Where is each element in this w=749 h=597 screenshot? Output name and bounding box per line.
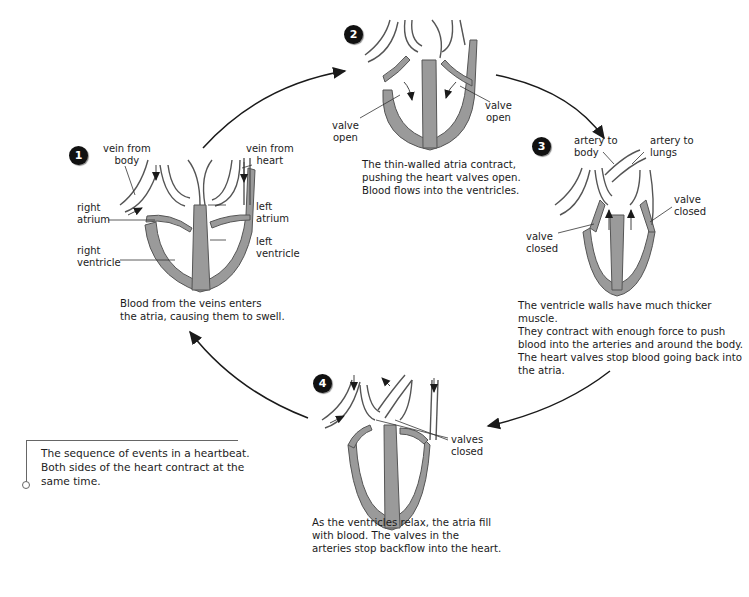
label-line: right — [77, 245, 121, 257]
label-line: vein from — [246, 143, 294, 155]
label-line: vein from — [103, 143, 151, 155]
label-valves-closed: valves closed — [451, 434, 483, 458]
label-line: closed — [674, 206, 706, 218]
caption-stage-2: The thin-walled atria contract, pushing … — [362, 158, 521, 197]
label-line: artery to — [650, 135, 694, 147]
label-vein-from-body: vein from body — [103, 143, 151, 167]
label-line: heart — [246, 155, 294, 167]
caption-stage-3: The ventricle walls have much thicker mu… — [518, 299, 749, 377]
caption-line: pushing the heart valves open. — [362, 171, 521, 184]
note-line: The sequence of events in a heartbeat. — [41, 446, 256, 460]
caption-line: with blood. The valves in the — [312, 529, 501, 542]
label-line: open — [485, 112, 512, 124]
note-line: Both sides of the heart contract at the — [41, 460, 256, 474]
label-valve-open-left: valve open — [332, 120, 359, 144]
label-line: ventricle — [256, 248, 300, 260]
label-left-ventricle: left ventricle — [256, 236, 300, 260]
label-line: valves — [451, 434, 483, 446]
label-artery-to-body: artery to body — [574, 135, 618, 159]
caption-line: They contract with enough force to push — [518, 325, 749, 338]
label-line: closed — [451, 446, 483, 458]
label-line: atrium — [256, 213, 289, 225]
label-line: valve — [485, 100, 512, 112]
step-badge-2: 2 — [344, 25, 363, 44]
step-badge-4: 4 — [313, 374, 332, 393]
label-vein-from-heart: vein from heart — [246, 143, 294, 167]
label-valve-closed-left: valve closed — [526, 231, 558, 255]
figure-note: The sequence of events in a heartbeat. B… — [41, 446, 256, 488]
note-rule-vertical — [26, 440, 27, 482]
label-line: closed — [526, 243, 558, 255]
caption-line: the atria. — [518, 364, 749, 377]
caption-line: Blood flows into the ventricles. — [362, 184, 521, 197]
note-rule-horizontal — [26, 440, 238, 441]
caption-line: the atria, causing them to swell. — [120, 310, 285, 323]
caption-line: blood into the arteries and around the b… — [518, 338, 749, 351]
label-line: valve — [674, 194, 706, 206]
step-badge-1: 1 — [69, 146, 88, 165]
label-line: body — [574, 147, 618, 159]
label-left-atrium: left atrium — [256, 201, 289, 225]
caption-line: Blood from the veins enters — [120, 297, 285, 310]
label-artery-to-lungs: artery to lungs — [650, 135, 694, 159]
label-line: valve — [332, 120, 359, 132]
label-line: left — [256, 201, 289, 213]
label-valve-open-right: valve open — [485, 100, 512, 124]
caption-line: As the ventricles relax, the atria fill — [312, 516, 501, 529]
label-valve-closed-right: valve closed — [674, 194, 706, 218]
label-line: open — [332, 132, 359, 144]
label-line: body — [103, 155, 151, 167]
note-bullet-icon — [22, 481, 30, 489]
label-line: right — [77, 202, 110, 214]
caption-line: The heart valves stop blood going back i… — [518, 351, 749, 364]
caption-line: The ventricle walls have much thicker mu… — [518, 299, 749, 325]
label-line: artery to — [574, 135, 618, 147]
caption-stage-1: Blood from the veins enters the atria, c… — [120, 297, 285, 323]
label-line: lungs — [650, 147, 694, 159]
label-right-atrium: right atrium — [77, 202, 110, 226]
caption-line: The thin-walled atria contract, — [362, 158, 521, 171]
label-line: valve — [526, 231, 558, 243]
caption-line: arteries stop backflow into the heart. — [312, 542, 501, 555]
label-line: ventricle — [77, 257, 121, 269]
step-badge-3: 3 — [532, 137, 551, 156]
label-line: atrium — [77, 214, 110, 226]
label-right-ventricle: right ventricle — [77, 245, 121, 269]
note-line: same time. — [41, 474, 256, 488]
caption-stage-4: As the ventricles relax, the atria fill … — [312, 516, 501, 555]
label-line: left — [256, 236, 300, 248]
